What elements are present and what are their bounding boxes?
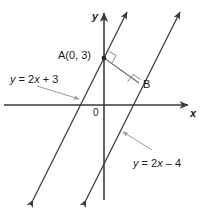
- point-a-marker: [102, 56, 107, 61]
- right-angle-marker-a: [109, 51, 116, 62]
- equation-label-line-1: y = 2x + 3: [10, 74, 58, 85]
- origin-label: 0: [93, 108, 99, 118]
- equation-label-line-2: y = 2x – 4: [133, 158, 181, 169]
- point-a-label: A(0, 3): [58, 50, 91, 61]
- coordinate-geometry-figure: y x 0 A(0, 3) B y = 2x + 3 y = 2x – 4: [0, 0, 206, 214]
- eq1-constant: + 3: [40, 73, 59, 85]
- figure-canvas: [0, 0, 206, 214]
- eq2-operator: = 2: [139, 157, 158, 169]
- line-y-equals-2x-minus-4: [86, 12, 180, 200]
- point-b-label: B: [143, 79, 150, 90]
- eq2-constant: – 4: [163, 157, 181, 169]
- x-axis-label: x: [190, 108, 196, 119]
- leader-line-equation-1: [37, 86, 79, 99]
- line-y-equals-2x-plus-3: [33, 12, 127, 200]
- right-angle-marker-b: [128, 74, 141, 82]
- y-axis-label: y: [92, 11, 98, 22]
- segment-ab: [104, 58, 139, 83]
- leader-line-equation-2: [123, 132, 152, 150]
- eq1-operator: = 2: [16, 73, 35, 85]
